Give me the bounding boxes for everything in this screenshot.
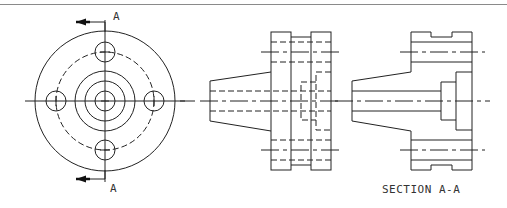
cutting-plane-marker-top: A [76,10,120,32]
cutting-plane-marker-bottom: A [76,170,117,195]
drawing-canvas: A A [0,0,507,208]
cutting-plane-label-bottom: A [110,182,117,195]
front-view [25,20,185,182]
section-title: SECTION A-A [382,183,460,196]
section-view: SECTION A-A [335,32,490,196]
side-view [180,32,340,170]
cutting-plane-label-top: A [113,10,120,23]
